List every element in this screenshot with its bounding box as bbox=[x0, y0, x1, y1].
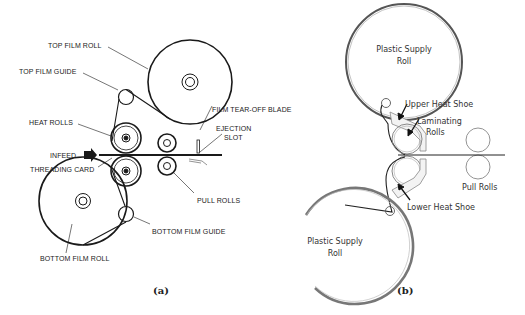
laminator-diagram: TOP FILM ROLL TOP FILM GUIDE HEAT ROLLS … bbox=[0, 0, 525, 315]
label-threading-card: THREADING CARD bbox=[30, 166, 94, 173]
label-pull-rolls-b: Pull Rolls bbox=[462, 183, 497, 192]
lower-heat_shoe bbox=[392, 159, 426, 198]
caption-a: (a) bbox=[153, 285, 169, 296]
label-lower-supply-roll-1: Plastic Supply bbox=[307, 237, 363, 246]
label-film-tear-off-blade: FILM TEAR-OFF BLADE bbox=[212, 106, 292, 113]
pull-roll-upper-b bbox=[466, 128, 490, 152]
labels-b: Plastic Supply Roll Upper Heat Shoe Lami… bbox=[307, 45, 497, 296]
label-lower-heat-shoe: Lower Heat Shoe bbox=[407, 203, 475, 212]
film-tear-off-blade bbox=[197, 140, 200, 153]
leader-lines-a bbox=[66, 47, 222, 253]
label-laminating-rolls-1: Laminating bbox=[417, 117, 462, 126]
pull-roll-upper bbox=[158, 134, 176, 152]
pull-roll-lower-b bbox=[466, 155, 490, 179]
label-bottom-film-roll: BOTTOM FILM ROLL bbox=[40, 255, 110, 262]
label-pull-rolls: PULL ROLLS bbox=[197, 197, 240, 204]
label-infeed: INFEED bbox=[50, 152, 76, 159]
upper-film-path bbox=[381, 105, 405, 155]
label-bottom-film-guide: BOTTOM FILM GUIDE bbox=[152, 228, 226, 235]
caption-b: (b) bbox=[397, 285, 413, 296]
label-laminating-rolls-2: Rolls bbox=[426, 128, 445, 137]
heat-roll-upper bbox=[111, 123, 141, 153]
ejection-slot bbox=[189, 159, 207, 165]
label-ejection-slot-2: SLOT bbox=[224, 134, 243, 141]
label-ejection-slot-1: EJECTION bbox=[216, 125, 251, 132]
label-top-film-roll: TOP FILM ROLL bbox=[48, 42, 102, 49]
label-upper-supply-roll-1: Plastic Supply bbox=[376, 45, 432, 54]
upper-guide-roller bbox=[382, 99, 391, 108]
infeed-arrow-icon bbox=[84, 148, 97, 162]
labels-a: TOP FILM ROLL TOP FILM GUIDE HEAT ROLLS … bbox=[19, 42, 292, 296]
label-upper-heat-shoe: Upper Heat Shoe bbox=[405, 100, 473, 109]
label-top-film-guide: TOP FILM GUIDE bbox=[19, 68, 77, 75]
label-upper-supply-roll-2: Roll bbox=[397, 57, 412, 66]
top-film-guide bbox=[119, 90, 134, 105]
label-lower-supply-roll-2: Roll bbox=[328, 249, 343, 258]
label-heat-rolls: HEAT ROLLS bbox=[29, 119, 73, 126]
